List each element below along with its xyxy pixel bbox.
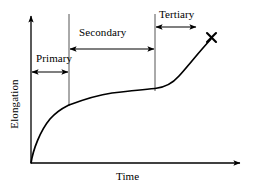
x-axis-label: Time xyxy=(116,170,139,182)
creep-curve-plot xyxy=(0,0,258,191)
stage-label-secondary: Secondary xyxy=(79,26,126,38)
rupture-marker-icon xyxy=(207,33,216,42)
y-axis-label: Elongation xyxy=(8,72,20,136)
creep-curve-figure: Primary Secondary Tertiary Time Elongati… xyxy=(0,0,258,191)
stage-label-primary: Primary xyxy=(36,52,72,64)
stage-label-tertiary: Tertiary xyxy=(159,8,194,20)
